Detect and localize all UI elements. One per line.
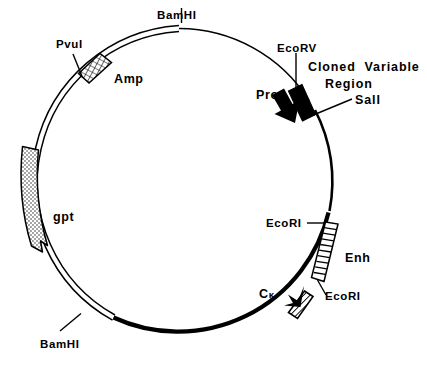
label-bamhi-top: BamHI: [157, 9, 196, 23]
label-sali: SalI: [355, 93, 381, 108]
label-amp: Amp: [114, 72, 144, 87]
leader-bamhi-bottom: [60, 314, 81, 332]
feature-gpt: [21, 147, 47, 253]
label-cloned-variable: Cloned Variable: [308, 60, 420, 75]
plasmid-map-figure: BamHI PvuI Amp gpt BamHI EcoRV Cloned Va…: [0, 0, 427, 372]
backbone-top-right-arc: [179, 29, 309, 101]
label-ecori-lower: EcoRI: [325, 290, 361, 304]
feature-amp: [79, 54, 112, 84]
feature-ck: [284, 286, 313, 319]
label-gpt: gpt: [53, 210, 74, 225]
plasmid-diagram: [0, 0, 427, 372]
label-ck-c: C: [259, 287, 269, 301]
label-bamhi-bottom: BamHI: [40, 338, 79, 352]
label-pvul: PvuI: [56, 38, 83, 52]
label-region: Region: [325, 77, 373, 92]
backbone-thin-double-arc: [32, 26, 179, 321]
label-ecorv: EcoRV: [277, 42, 317, 56]
backbone-upper-right-arc: [315, 110, 332, 211]
leader-sali: [309, 99, 353, 117]
label-ck-kappa: κ: [269, 289, 274, 300]
label-ecori-upper: EcoRI: [266, 217, 302, 231]
label-ck: Cκ: [259, 287, 274, 302]
label-enh: Enh: [345, 251, 370, 266]
label-pro: Pro: [256, 88, 279, 103]
